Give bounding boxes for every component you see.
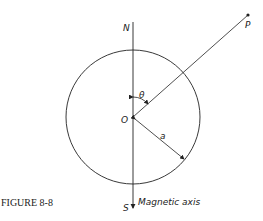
- magnetic-dipole-diagram: N S O P θ a Magnetic axis FIGURE 8-8: [0, 0, 263, 221]
- radius-vector-op: [133, 15, 248, 117]
- magnetic-axis-label: Magnetic axis: [138, 197, 200, 207]
- north-label: N: [123, 23, 130, 33]
- south-label: S: [123, 203, 129, 213]
- point-p-dot: [246, 13, 249, 16]
- figure-caption: FIGURE 8-8: [1, 197, 53, 208]
- theta-label: θ: [139, 90, 145, 100]
- radius-a-label: a: [160, 131, 166, 141]
- point-p-label: P: [245, 20, 251, 30]
- origin-label: O: [121, 115, 128, 125]
